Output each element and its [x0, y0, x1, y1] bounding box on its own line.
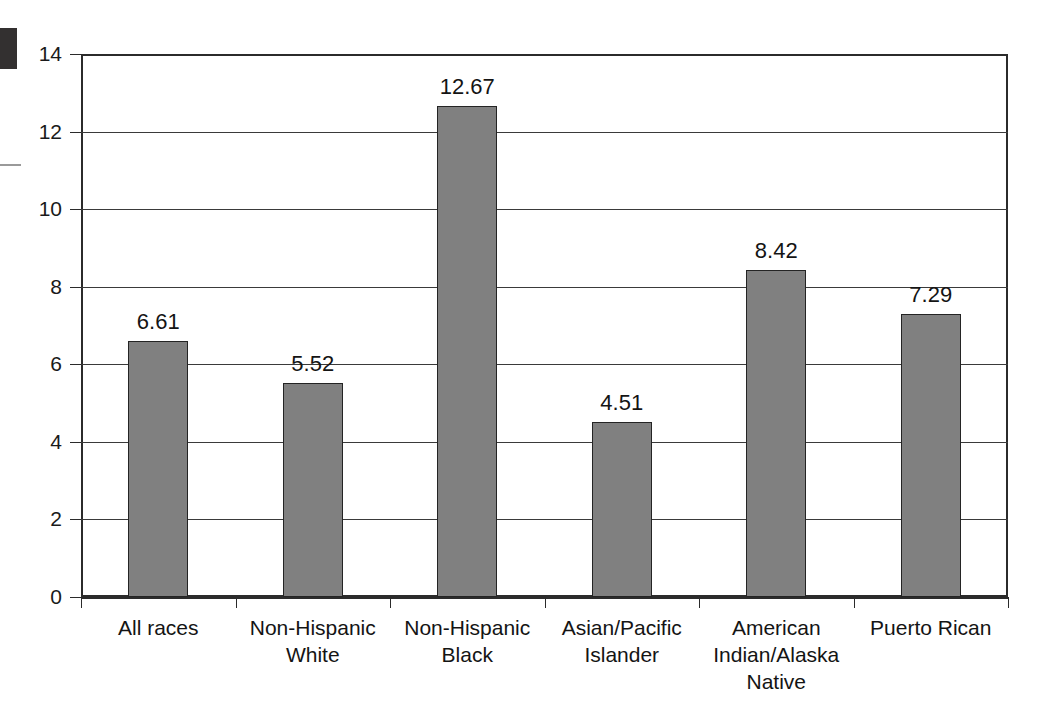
y-axis-tick-label: 10	[22, 198, 62, 219]
x-axis-category-label: Puerto Rican	[854, 614, 1009, 641]
gridline	[81, 132, 1008, 133]
x-axis-tick-mark	[390, 597, 391, 608]
bar-chart: 02468101214 6.615.5212.674.518.427.29 Al…	[0, 0, 1048, 704]
x-axis-category-label-line: Non-Hispanic	[390, 614, 545, 641]
x-axis-tick-mark	[545, 597, 546, 608]
y-axis-tick-label: 8	[22, 276, 62, 297]
x-axis-category-label: AmericanIndian/AlaskaNative	[699, 614, 854, 695]
bar-value-label: 8.42	[706, 240, 846, 262]
x-axis-tick-mark	[1008, 597, 1009, 608]
y-axis-tick-mark	[70, 442, 81, 443]
y-axis-tick-label: 4	[22, 431, 62, 452]
x-axis-category-label-line: White	[236, 641, 391, 668]
gridline	[81, 442, 1008, 443]
y-axis-tick-mark	[70, 132, 81, 133]
bar-value-label: 12.67	[397, 76, 537, 98]
x-axis-tick-mark	[699, 597, 700, 608]
y-axis-tick-label: 12	[22, 121, 62, 142]
x-axis-tick-mark	[81, 597, 82, 608]
bar	[901, 314, 961, 597]
gridline	[81, 519, 1008, 520]
x-axis-category-label: Non-HispanicBlack	[390, 614, 545, 668]
y-axis-tick-label: 6	[22, 353, 62, 374]
chart-page: 02468101214 6.615.5212.674.518.427.29 Al…	[0, 0, 1048, 704]
gridline	[81, 364, 1008, 365]
x-axis-category-label-line: Islander	[545, 641, 700, 668]
x-axis-category-label-line: Non-Hispanic	[236, 614, 391, 641]
y-axis-tick-mark	[70, 54, 81, 55]
y-axis-tick-label: 14	[22, 43, 62, 64]
bar	[746, 270, 806, 597]
x-axis-category-label-line: Puerto Rican	[854, 614, 1009, 641]
x-axis-category-label-line: All races	[81, 614, 236, 641]
y-axis-tick-mark	[70, 597, 81, 598]
bar	[592, 422, 652, 597]
gridline	[81, 209, 1008, 210]
bar	[283, 383, 343, 597]
x-axis-category-label-line: American	[699, 614, 854, 641]
x-axis-category-label: Non-HispanicWhite	[236, 614, 391, 668]
bar	[128, 341, 188, 597]
x-axis-tick-mark	[236, 597, 237, 608]
y-axis-tick-mark	[70, 209, 81, 210]
y-axis-tick-mark	[70, 287, 81, 288]
x-axis-tick-mark	[854, 597, 855, 608]
x-axis-category-label: Asian/PacificIslander	[545, 614, 700, 668]
y-axis-tick-mark	[70, 519, 81, 520]
y-axis-tick-label: 2	[22, 508, 62, 529]
bar-value-label: 7.29	[861, 284, 1001, 306]
bar-value-label: 4.51	[552, 392, 692, 414]
bar-value-label: 5.52	[243, 353, 383, 375]
y-axis-tick-label: 0	[22, 586, 62, 607]
x-axis-category-label-line: Asian/Pacific	[545, 614, 700, 641]
x-axis-category-label-line: Native	[699, 668, 854, 695]
x-axis-category-label-line: Indian/Alaska	[699, 641, 854, 668]
y-axis-tick-mark	[70, 364, 81, 365]
bar-value-label: 6.61	[88, 311, 228, 333]
bar	[437, 106, 497, 597]
x-axis-category-label: All races	[81, 614, 236, 641]
x-axis-category-label-line: Black	[390, 641, 545, 668]
